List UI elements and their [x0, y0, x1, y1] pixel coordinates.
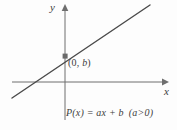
equation-body: = ax + b [84, 107, 124, 118]
equation-label: P(x) = ax + b(a>0) [66, 108, 153, 118]
y-intercept-label: (0, b) [68, 58, 91, 68]
x-axis-label: x [164, 86, 169, 97]
y-axis-label: y [50, 2, 55, 13]
y-axis-arrowhead-icon [62, 4, 69, 11]
y-intercept-marker [63, 54, 68, 59]
equation-function-arg: (x) [72, 107, 84, 118]
equation-condition: (a>0) [129, 107, 153, 118]
intercept-label-close: ) [87, 57, 91, 68]
intercept-label-open: (0, [68, 57, 82, 68]
function-line [12, 5, 150, 98]
linear-function-figure: y x (0, b) P(x) = ax + b(a>0) [0, 0, 177, 130]
